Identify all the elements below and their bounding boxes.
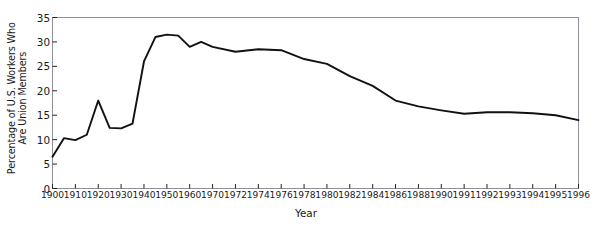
x-axis-tick-label: 1972 — [224, 190, 247, 200]
x-axis-tick-label: 1991 — [453, 190, 476, 200]
x-axis-tick-label: 1974 — [247, 190, 270, 200]
x-axis-tick-label: 1930 — [110, 190, 133, 200]
x-axis-tick-label: 1982 — [338, 190, 361, 200]
x-axis-tick-label: 1960 — [178, 190, 201, 200]
x-axis-tick-label: 1900 — [41, 190, 64, 200]
x-axis-tick-label: 1986 — [384, 190, 407, 200]
x-axis-tick-label: 1970 — [201, 190, 224, 200]
x-axis-tick-label: 1976 — [270, 190, 293, 200]
x-axis-tick-label: 1988 — [407, 190, 430, 200]
x-axis-tick-label: 1980 — [315, 190, 338, 200]
x-axis-tick-label: 1993 — [498, 190, 521, 200]
x-axis-tick-label: 1990 — [430, 190, 453, 200]
x-axis-tick-label: 1940 — [132, 190, 155, 200]
x-axis-title: Year — [0, 207, 612, 219]
x-axis-tick-label: 1920 — [87, 190, 110, 200]
union-membership-line-chart: Percentage of U.S. Workers Who Are Union… — [0, 0, 612, 235]
x-axis-tick-label: 1950 — [155, 190, 178, 200]
x-axis-tick-label: 1978 — [292, 190, 315, 200]
x-axis-tick-label: 1992 — [475, 190, 498, 200]
x-axis-tick-label: 1910 — [64, 190, 87, 200]
x-axis-tick-label: 1995 — [544, 190, 567, 200]
plot-border — [53, 18, 579, 189]
x-axis-tick-labels: 1900191019201930194019501960197019721974… — [0, 190, 612, 206]
x-axis-tick-label: 1996 — [567, 190, 590, 200]
x-axis-tick-label: 1984 — [361, 190, 384, 200]
x-axis-tick-label: 1994 — [521, 190, 544, 200]
